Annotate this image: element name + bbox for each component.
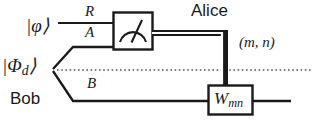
wire-classical-mn-inner <box>152 33 222 86</box>
wire-label-A: A <box>85 25 94 40</box>
entangled-state-base: |Φ <box>2 55 22 76</box>
wire-B-quantum <box>53 71 209 101</box>
entangled-state-subscript: d <box>22 63 29 78</box>
input-state-ket-label: |φ⟩ <box>26 16 49 35</box>
correction-gate-label-base: W <box>214 89 228 108</box>
correction-gate-label: Wmn <box>214 90 243 109</box>
measurement-gate-box[interactable] <box>114 13 153 50</box>
wire-label-R: R <box>85 4 94 19</box>
wire-classical-mn-outer <box>152 33 225 86</box>
entangled-state-ket-label: |Φd⟩ <box>2 56 36 78</box>
party-label-bob: Bob <box>10 90 40 107</box>
entangled-state-close-bracket: ⟩ <box>29 55 36 76</box>
party-label-alice: Alice <box>191 2 228 19</box>
measurement-outcome-label: (m, n) <box>239 35 275 50</box>
correction-gate-label-subscript: mn <box>228 96 243 110</box>
circuit-diagram-canvas: |φ⟩ |Φd⟩ R A B Alice Bob (m, n) Wmn <box>0 0 322 123</box>
wire-label-B: B <box>87 76 96 91</box>
wire-A-quantum <box>53 47 114 69</box>
